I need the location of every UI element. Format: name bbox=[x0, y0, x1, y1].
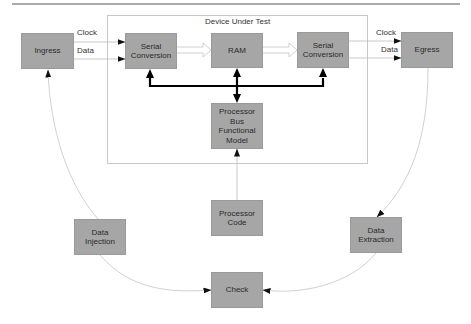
bus-arrowhead-ram bbox=[233, 68, 241, 77]
node-ram: RAM bbox=[211, 33, 263, 68]
node-data-injection-label: Data Injection bbox=[85, 228, 115, 247]
node-egress: Egress bbox=[401, 32, 453, 68]
node-ram-label: RAM bbox=[228, 46, 246, 56]
bus-arrowhead-serial-in bbox=[146, 69, 154, 78]
ingress-clock-label: Clock bbox=[77, 28, 97, 37]
node-processor-code: Processor Code bbox=[211, 200, 263, 236]
node-serial-conversion-out-label: Serial Conversion bbox=[303, 41, 343, 60]
node-serial-conversion-out: Serial Conversion bbox=[297, 32, 349, 68]
node-processor-bfm-label: Processor Bus Functional Model bbox=[219, 107, 256, 145]
node-data-extraction-label: Data Extraction bbox=[358, 226, 394, 245]
edge-serial-to-ram bbox=[177, 43, 211, 57]
edge-injection-to-check bbox=[100, 255, 211, 291]
bus-arrowhead-bfm bbox=[233, 94, 241, 103]
bus-arrowhead-serial-out bbox=[319, 68, 327, 77]
edge-ram-to-serial bbox=[263, 43, 297, 57]
edge-injection-to-ingress bbox=[48, 70, 98, 219]
egress-clock-label: Clock bbox=[376, 28, 396, 37]
edge-extraction-to-check bbox=[263, 253, 376, 291]
node-processor-code-label: Processor Code bbox=[219, 209, 255, 228]
node-serial-conversion-in-label: Serial Conversion bbox=[131, 42, 171, 61]
node-data-extraction: Data Extraction bbox=[350, 217, 402, 253]
node-data-injection: Data Injection bbox=[74, 219, 126, 255]
node-processor-bfm: Processor Bus Functional Model bbox=[211, 103, 263, 149]
node-check: Check bbox=[211, 272, 263, 308]
node-ingress: Ingress bbox=[21, 33, 74, 69]
egress-data-label: Data bbox=[381, 45, 398, 54]
edge-egress-to-extraction bbox=[377, 68, 428, 217]
node-ingress-label: Ingress bbox=[34, 46, 60, 56]
node-serial-conversion-in: Serial Conversion bbox=[125, 33, 177, 69]
node-check-label: Check bbox=[226, 285, 249, 295]
ingress-data-label: Data bbox=[77, 46, 94, 55]
device-under-test-title: Device Under Test bbox=[205, 17, 270, 26]
node-egress-label: Egress bbox=[415, 45, 440, 55]
